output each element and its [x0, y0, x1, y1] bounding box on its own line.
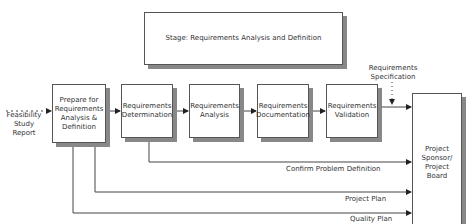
determination-box: Requirements Determination [121, 84, 173, 138]
confirm-problem-definition-label: Confirm Problem Definition [286, 165, 406, 174]
feasibility-study-report-label: Feasibility Study Report [2, 111, 46, 138]
prepare-box: Prepare for Requirements Analysis & Defi… [52, 84, 106, 143]
validation-box: Requirements Validation [326, 84, 378, 138]
documentation-box: Requirements Documentation [257, 84, 309, 138]
stage-title: Stage: Requirements Analysis and Definit… [165, 34, 321, 43]
quality-plan-label: Quality Plan [350, 215, 410, 224]
project-plan-label: Project Plan [345, 195, 405, 204]
project-sponsor-box: Project Sponsor/ Project Board [412, 93, 462, 224]
stage-box: Stage: Requirements Analysis and Definit… [144, 12, 343, 65]
requirements-specification-label: Requirements Specification [366, 64, 420, 82]
analysis-box: Requirements Analysis [189, 84, 240, 138]
